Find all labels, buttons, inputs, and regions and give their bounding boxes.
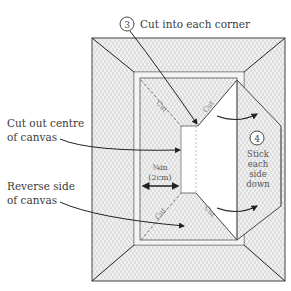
callout-cutout-line-1: Cut out centre bbox=[7, 117, 84, 129]
step-4-line-3: side bbox=[249, 169, 267, 179]
step-4-line-4: down bbox=[246, 179, 270, 189]
step-4-line-1: Stick bbox=[247, 149, 270, 159]
step-3-label: Cut into each corner bbox=[140, 18, 251, 30]
callout-reverse-line-1: Reverse side bbox=[7, 180, 75, 192]
callout-cutout-line-2: of canvas bbox=[7, 131, 57, 143]
step-4-number: 4 bbox=[254, 134, 260, 144]
measurement-imperial: ¾in bbox=[152, 163, 167, 172]
step-4-line-2: each bbox=[248, 159, 269, 169]
callout-reverse-line-2: of canvas bbox=[7, 194, 57, 206]
measurement-metric: (2cm) bbox=[148, 173, 171, 182]
step-3-number: 3 bbox=[124, 20, 130, 30]
canvas-cutting-diagram: Cut Cut Cut Cut ¾in (2cm) 3 Cut into eac… bbox=[0, 0, 291, 291]
